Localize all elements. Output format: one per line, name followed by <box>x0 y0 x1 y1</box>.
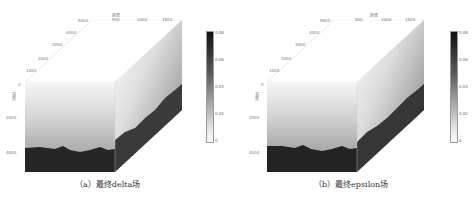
z-tick-0: 0 <box>18 82 21 87</box>
z-tick-0: 0 <box>261 82 264 87</box>
cbar-tick-0.02: 0.02 <box>215 111 224 116</box>
cbar-tick-0.08: 0.08 <box>215 30 224 35</box>
x-axis-label: 距离 <box>370 12 378 18</box>
cbar-tick-0.06: 0.06 <box>215 57 224 62</box>
z-tick-2000: 2000 <box>6 115 16 120</box>
x-tick-1: 500 <box>355 17 363 22</box>
delta-volume-plot <box>0 0 237 197</box>
cbar-tick-0.06: 0.06 <box>459 57 468 62</box>
z-tick-2000: 2000 <box>249 115 259 120</box>
x-tick-2: 1000 <box>137 17 147 22</box>
epsilon-volume-plot <box>237 0 474 197</box>
y-tick-5: 5000 <box>320 18 330 23</box>
cbar-tick-0: 0 <box>459 138 462 143</box>
colorbar-delta <box>206 31 214 143</box>
cbar-tick-0.04: 0.04 <box>215 84 224 89</box>
z-tick-4000: 4000 <box>6 150 16 155</box>
x-tick-2: 1000 <box>381 17 391 22</box>
cbar-tick-0: 0 <box>215 138 218 143</box>
z-tick-4000: 4000 <box>249 150 259 155</box>
y-tick-3: 3000 <box>295 42 305 47</box>
cbar-tick-0.08: 0.08 <box>459 30 468 35</box>
y-tick-2: 2000 <box>38 56 48 61</box>
colorbar-epsilon <box>450 31 458 143</box>
z-axis-label: 深度 <box>10 92 16 100</box>
z-axis-label: 深度 <box>253 92 259 100</box>
cbar-tick-0.04: 0.04 <box>459 84 468 89</box>
y-tick-2: 2000 <box>281 56 291 61</box>
panel-delta: 距离 500 1000 1500 5000 4000 3000 2000 100… <box>0 0 237 197</box>
caption-b: （b）最终epsilon场 <box>314 178 388 189</box>
y-tick-4: 4000 <box>66 30 76 35</box>
y-tick-1: 1000 <box>269 68 279 73</box>
x-tick-3: 1500 <box>405 17 415 22</box>
y-tick-4: 4000 <box>309 30 319 35</box>
caption-a: （a）最终delta场 <box>75 178 140 189</box>
panel-epsilon: 距离 500 1000 1500 5000 4000 3000 2000 100… <box>237 0 474 197</box>
y-tick-1: 1000 <box>26 68 36 73</box>
x-tick-1: 500 <box>112 17 120 22</box>
x-tick-3: 1500 <box>162 17 172 22</box>
y-tick-5: 5000 <box>78 18 88 23</box>
cbar-tick-0.02: 0.02 <box>459 111 468 116</box>
y-tick-3: 3000 <box>52 42 62 47</box>
